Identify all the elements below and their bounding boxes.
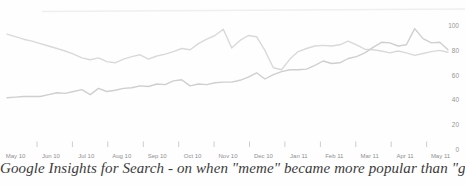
- x-axis-label: May 10: [6, 153, 26, 159]
- gene-line: [7, 29, 448, 69]
- x-axis-label: Aug 10: [112, 153, 132, 159]
- y-axis-label: 60: [452, 72, 460, 79]
- x-axis-label: Dec 10: [254, 153, 274, 159]
- chart-top-rule: [42, 9, 465, 12]
- x-axis-label: Oct 10: [184, 153, 202, 159]
- x-axis-label: Jul 10: [78, 153, 95, 159]
- x-axis-label: Apr 11: [396, 153, 414, 159]
- y-axis-label: 20: [452, 121, 460, 128]
- x-axis-label: Sep 10: [148, 153, 168, 159]
- x-axis-label: Feb 11: [325, 153, 344, 159]
- x-axis-label: Jan 11: [290, 153, 308, 159]
- y-axis-label: 0: [455, 146, 459, 153]
- line-chart: 100806040200May 10Jun 10Jul 10Aug 10Sep …: [0, 0, 465, 160]
- google-insights-chart-image: 100806040200May 10Jun 10Jul 10Aug 10Sep …: [0, 0, 465, 186]
- x-axis-label: Nov 10: [218, 153, 238, 159]
- y-axis-label: 40: [452, 96, 460, 103]
- x-axis-label: Mar 11: [361, 153, 380, 159]
- x-axis-label: Jun 10: [42, 153, 61, 159]
- x-axis-label: May 11: [431, 153, 451, 159]
- y-axis-label: 80: [452, 47, 460, 54]
- y-axis-label: 100: [448, 22, 459, 29]
- chart-caption: Google Insights for Search - on when "me…: [0, 160, 465, 177]
